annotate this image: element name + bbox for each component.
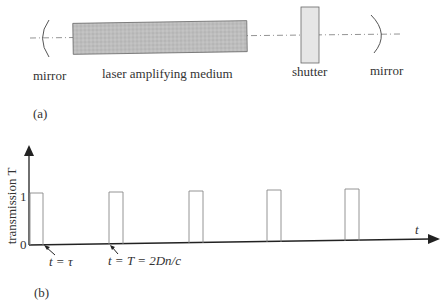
left-mirror-icon [43,20,50,57]
y-tick-1: 1 [20,189,27,205]
caption-b: (b) [34,285,49,300]
annotation-period: t = T = 2Dn/c [108,253,181,269]
x-axis-label: t [415,222,419,238]
label-laser-medium: laser amplifying medium [102,66,233,82]
label-mirror-right: mirror [370,63,403,79]
y-axis-label: transmission T [4,156,20,256]
x-axis-arrow-icon [428,234,440,244]
label-mirror-left: mirror [33,68,66,84]
y-axis-arrow-icon [24,145,34,156]
y-tick-0: 0 [20,237,27,253]
laser-medium [73,21,247,55]
pulse-train [30,189,359,245]
caption-a: (a) [33,106,47,122]
shutter [301,7,319,63]
annotation-tau: t = τ [49,254,73,270]
label-shutter: shutter [292,64,327,80]
x-axis [29,239,430,245]
